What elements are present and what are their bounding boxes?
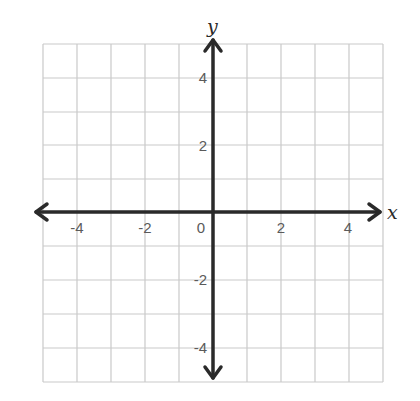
y-tick-label: -4: [194, 339, 207, 356]
y-axis: [205, 40, 221, 378]
x-tick-label: 4: [344, 219, 352, 236]
x-tick-label: -2: [138, 219, 151, 236]
y-tick-label: -2: [194, 271, 207, 288]
x-axis: [36, 204, 380, 220]
x-tick-label: 2: [277, 219, 285, 236]
coordinate-plane: y x -4 -2 0 2 4 4 2 -2 -4: [0, 0, 420, 401]
x-tick-label: 0: [197, 219, 205, 236]
x-axis-label: x: [387, 201, 398, 223]
x-tick-label: -4: [70, 219, 83, 236]
y-tick-label: 2: [199, 137, 207, 154]
y-tick-label: 4: [199, 69, 207, 86]
y-axis-label: y: [206, 15, 218, 37]
